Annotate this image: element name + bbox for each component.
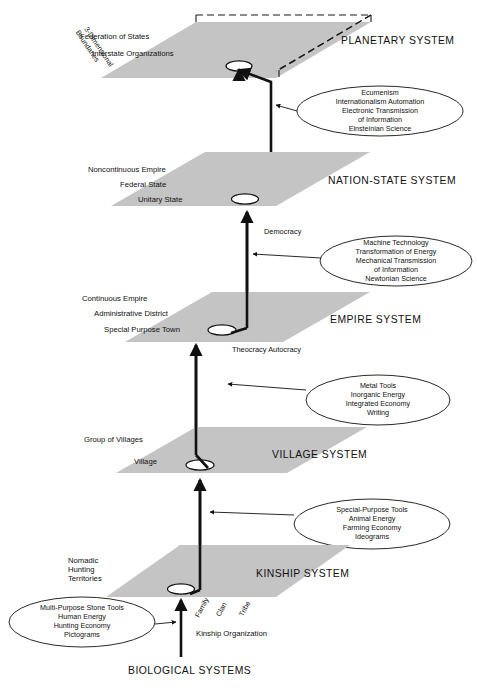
- callout-kinship-line-4: Pictograms: [64, 630, 100, 639]
- callout-empire-line-1: Metal Tools: [360, 381, 397, 390]
- callout-nation-state-line-5: Newtonian Science: [365, 274, 427, 283]
- callout-kinship-line-2: Human Energy: [58, 612, 106, 621]
- level-label-nomadic: Nomadic: [68, 556, 98, 565]
- callout-nation-state-line-1: Machine Technology: [363, 238, 429, 247]
- callout-village-line-1: Special-Purpose Tools: [336, 505, 408, 514]
- callout-planetary-line-1: Ecumenism: [361, 88, 399, 97]
- system-nation-state: NATION-STATE SYSTEM Noncontinuous Empire…: [88, 152, 456, 206]
- level-label-special-purpose-town: Special Purpose Town: [104, 325, 180, 334]
- level-label-hunting: Hunting: [68, 565, 95, 574]
- callout-empire-connector: [228, 384, 306, 390]
- level-label-territories: Territories: [68, 574, 102, 583]
- system-label-kinship: KINSHIP SYSTEM: [256, 568, 349, 579]
- level-label-village: Village: [134, 457, 157, 466]
- level-label-noncontinuous-empire: Noncontinuous Empire: [88, 165, 166, 174]
- system-label-planetary: PLANETARY SYSTEM: [341, 35, 454, 46]
- callout-kinship-line-3: Hunting Economy: [54, 621, 111, 630]
- callout-planetary-line-5: Einsteinian Science: [349, 124, 412, 133]
- system-label-village: VILLAGE SYSTEM: [272, 449, 367, 460]
- callout-planetary-group: Ecumenism Internationalism Automation El…: [276, 86, 463, 136]
- callout-nation-state-connector: [253, 254, 321, 258]
- callout-planetary-line-3: Electronic Transmission: [342, 106, 418, 115]
- callout-nation-state-group: Machine Technology Transformation of Ene…: [253, 236, 472, 286]
- level-label-administrative-district: Administrative District: [94, 309, 169, 318]
- base-label-biological-systems: BIOLOGICAL SYSTEMS: [128, 665, 251, 676]
- kinship-unit-family: Family: [193, 596, 211, 619]
- system-label-empire: EMPIRE SYSTEM: [330, 314, 421, 325]
- callout-nation-state-line-4: of Information: [374, 265, 418, 274]
- callout-kinship-line-1: Multi-Purpose Stone Tools: [40, 603, 124, 612]
- callout-village-line-2: Animal Energy: [349, 514, 396, 523]
- callout-planetary-line-4: of Information: [358, 115, 402, 124]
- kinship-unit-tribe: Tribe: [237, 599, 253, 617]
- kinship-organization-label: Kinship Organization: [196, 629, 267, 638]
- system-planetary: PLANETARY SYSTEM Federation of States In…: [74, 15, 455, 78]
- callout-empire-line-2: Inorganic Energy: [351, 390, 406, 399]
- transition-label-theocracy-autocracy: Theocracy Autocracy: [232, 345, 301, 354]
- planetary-node-ellipse: [226, 61, 252, 71]
- callout-village-group: Special-Purpose Tools Animal Energy Farm…: [210, 499, 450, 549]
- callout-kinship-group: Multi-Purpose Stone Tools Human Energy H…: [9, 597, 176, 647]
- level-label-group-of-villages: Group of Villages: [84, 435, 143, 444]
- kinship-unit-clan-label: Clan: [214, 601, 229, 618]
- level-label-continuous-empire: Continuous Empire: [82, 294, 147, 303]
- kinship-unit-tribe-label: Tribe: [237, 599, 253, 617]
- callout-village-connector: [210, 512, 294, 515]
- callout-empire-line-3: Integrated Economy: [346, 399, 411, 408]
- callout-empire-line-4: Writing: [367, 408, 389, 417]
- kinship-unit-clan: Clan: [214, 601, 229, 618]
- diagram-canvas: PLANETARY SYSTEM Federation of States In…: [0, 0, 477, 693]
- callout-village-line-3: Farming Economy: [343, 523, 402, 532]
- callout-nation-state-line-3: Mechanical Transmission: [356, 256, 437, 265]
- village-node-ellipse: [186, 460, 214, 470]
- level-label-federal-state: Federal State: [120, 180, 166, 189]
- hierarchy-of-social-systems-diagram: PLANETARY SYSTEM Federation of States In…: [0, 0, 477, 693]
- callout-empire-group: Metal Tools Inorganic Energy Integrated …: [228, 375, 450, 425]
- nation-state-node-ellipse: [232, 194, 259, 204]
- system-label-nation-state: NATION-STATE SYSTEM: [328, 175, 456, 186]
- callout-planetary-connector: [276, 105, 297, 111]
- callout-village-line-4: Ideograms: [355, 532, 389, 541]
- callout-nation-state-line-2: Transformation of Energy: [356, 247, 437, 256]
- callout-kinship-connector: [155, 622, 176, 624]
- callout-planetary-line-2: Internationalism Automation: [336, 97, 425, 106]
- kinship-unit-family-label: Family: [193, 596, 211, 619]
- transition-label-democracy: Democracy: [264, 227, 302, 236]
- level-label-unitary-state: Unitary State: [138, 195, 182, 204]
